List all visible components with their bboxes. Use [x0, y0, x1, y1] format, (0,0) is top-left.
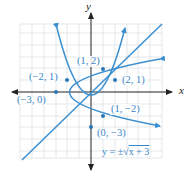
y-axis-label: y	[86, 1, 91, 12]
x-axis-label: x	[179, 85, 184, 96]
point-label-1-neg2: (1, −2)	[110, 104, 141, 115]
point-label-1-2: (1, 2)	[76, 56, 101, 67]
point-label-2-1: (2, 1)	[121, 75, 146, 86]
point-label-neg3-0: (−3, 0)	[16, 95, 47, 106]
equation-prefix: y = ±	[102, 146, 123, 157]
point-label-0-neg3: (0, −3)	[96, 128, 127, 139]
equation-annotation: y = ±√x + 3	[102, 147, 149, 157]
equation-radicand: x + 3	[129, 146, 150, 157]
graph	[0, 0, 195, 181]
point-label-neg2-1: (−2, 1)	[28, 72, 59, 83]
